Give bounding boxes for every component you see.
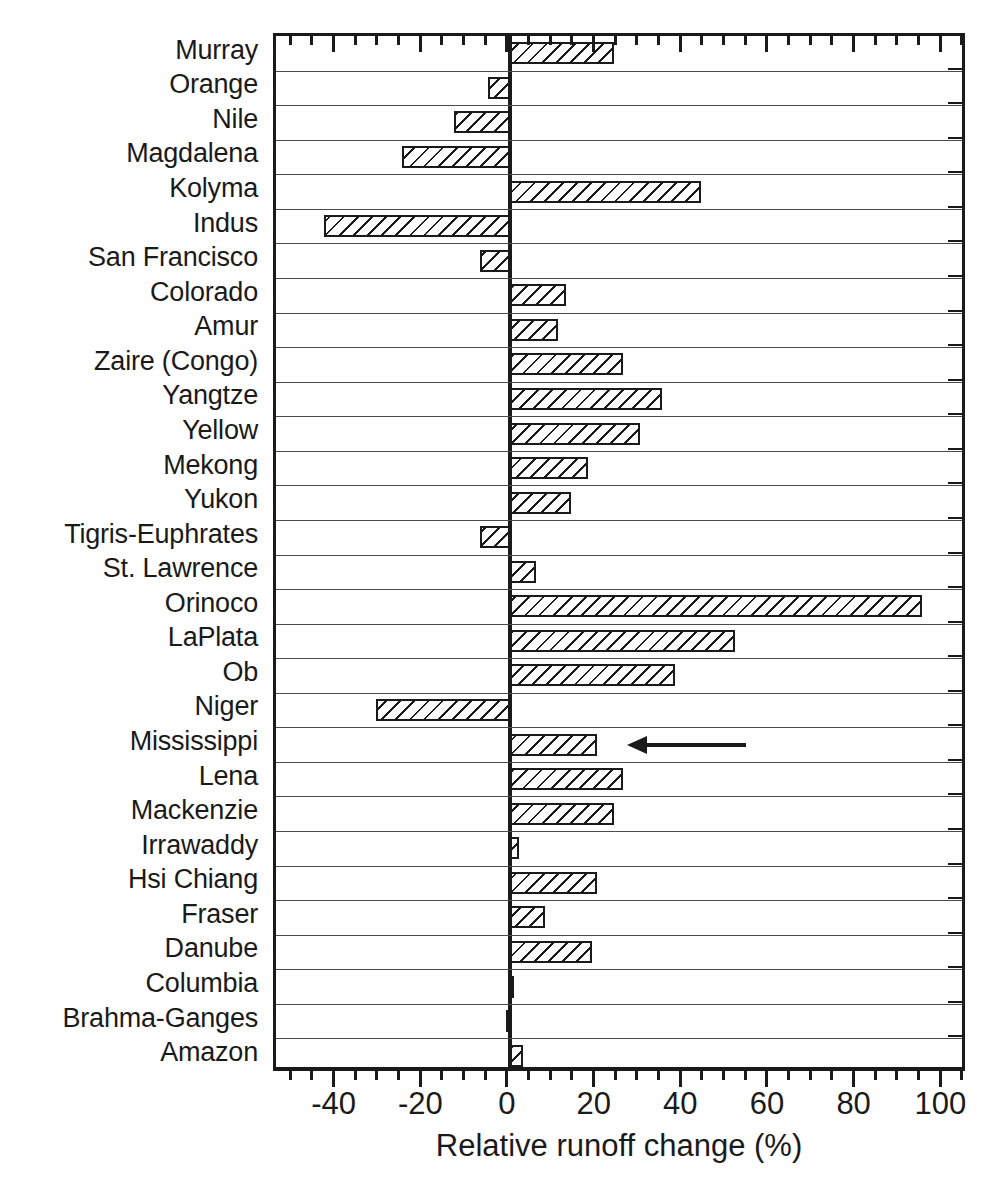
- bar: [510, 803, 614, 825]
- row-separator-line: [276, 485, 962, 486]
- y-axis-tick: [948, 1001, 962, 1003]
- x-axis-minor-tick: [874, 1071, 877, 1080]
- x-axis-minor-tick: [809, 1071, 812, 1080]
- category-label: Zaire (Congo): [0, 344, 266, 379]
- x-axis-minor-tick: [960, 1071, 963, 1080]
- bar: [376, 699, 510, 721]
- bar: [510, 906, 545, 928]
- x-axis-tick-label: -40: [311, 1088, 356, 1119]
- x-axis-major-tick: [419, 1071, 422, 1087]
- row-separator-line: [276, 658, 962, 659]
- x-axis-minor-tick: [549, 36, 552, 45]
- x-axis-minor-tick: [787, 1071, 790, 1080]
- category-label: Danube: [0, 932, 266, 967]
- x-axis-minor-tick: [722, 1071, 725, 1080]
- x-axis-major-tick: [765, 1071, 768, 1087]
- row-separator-line: [276, 1038, 962, 1039]
- bar: [510, 630, 735, 652]
- bar: [510, 492, 571, 514]
- category-label: Orange: [0, 68, 266, 103]
- row-separator-line: [276, 174, 962, 175]
- y-axis-tick: [948, 897, 962, 899]
- x-axis-minor-tick: [484, 1071, 487, 1080]
- x-axis-major-tick: [419, 36, 422, 52]
- bar: [510, 423, 640, 445]
- row-separator-line: [276, 382, 962, 383]
- x-axis-major-tick: [852, 1071, 855, 1087]
- category-label: Lena: [0, 759, 266, 794]
- row-separator-line: [276, 105, 962, 106]
- category-label: Yangtze: [0, 379, 266, 414]
- row-separator-line: [276, 900, 962, 901]
- x-axis-title: Relative runoff change (%): [273, 1130, 965, 1161]
- bar: [510, 1045, 523, 1067]
- y-axis-tick: [948, 586, 962, 588]
- bar: [510, 353, 623, 375]
- row-separator-line: [276, 589, 962, 590]
- row-separator-line: [276, 209, 962, 210]
- x-axis-minor-tick: [700, 36, 703, 45]
- x-axis-tick-label: 100: [914, 1088, 966, 1119]
- category-label: Brahma-Ganges: [0, 1001, 266, 1036]
- y-axis-tick: [948, 171, 962, 173]
- x-axis-minor-tick: [917, 36, 920, 45]
- x-axis-tick-label: 40: [663, 1088, 697, 1119]
- x-axis-top-ticks: [273, 33, 965, 53]
- x-axis-minor-tick: [289, 1071, 292, 1080]
- bar: [510, 941, 592, 963]
- y-axis-tick: [948, 863, 962, 865]
- x-axis-minor-tick: [722, 36, 725, 45]
- category-label: Nile: [0, 102, 266, 137]
- row-separator-line: [276, 278, 962, 279]
- row-separator-line: [276, 313, 962, 314]
- bar: [324, 215, 510, 237]
- runoff-change-bar-chart: MurrayOrangeNileMagdalenaKolymaIndusSan …: [0, 0, 998, 1182]
- y-axis-tick: [948, 240, 962, 242]
- category-label: Amur: [0, 310, 266, 345]
- bar: [488, 77, 510, 99]
- y-axis-tick: [948, 275, 962, 277]
- y-axis-tick: [948, 690, 962, 692]
- x-axis-minor-tick: [917, 1071, 920, 1080]
- x-axis-major-tick: [592, 36, 595, 52]
- x-axis-minor-tick: [635, 36, 638, 45]
- x-axis-minor-tick: [440, 36, 443, 45]
- row-separator-line: [276, 762, 962, 763]
- x-axis-minor-tick: [310, 1071, 313, 1080]
- category-label: Mackenzie: [0, 793, 266, 828]
- x-axis-tick-label: -20: [398, 1088, 443, 1119]
- x-axis-major-tick: [939, 1071, 942, 1087]
- bar: [510, 734, 597, 756]
- bar: [510, 457, 588, 479]
- bar: [510, 561, 536, 583]
- x-axis-minor-tick: [289, 36, 292, 45]
- x-axis-minor-tick: [830, 1071, 833, 1080]
- category-label: Irrawaddy: [0, 828, 266, 863]
- x-axis-minor-tick: [744, 1071, 747, 1080]
- bar: [506, 1010, 510, 1032]
- x-axis-major-tick: [765, 36, 768, 52]
- x-axis-minor-tick: [657, 1071, 660, 1080]
- category-label: Murray: [0, 33, 266, 68]
- y-axis-tick: [948, 759, 962, 761]
- y-axis-tick: [948, 413, 962, 415]
- plot-inner: [276, 36, 962, 1067]
- row-separator-line: [276, 693, 962, 694]
- y-axis-tick: [948, 102, 962, 104]
- y-axis-tick: [948, 68, 962, 70]
- bar: [510, 768, 623, 790]
- bar: [510, 284, 566, 306]
- row-separator-line: [276, 416, 962, 417]
- category-label: Magdalena: [0, 137, 266, 172]
- bar: [510, 388, 662, 410]
- x-axis-minor-tick: [830, 36, 833, 45]
- category-label: Mississippi: [0, 724, 266, 759]
- x-axis-major-tick: [679, 1071, 682, 1087]
- x-axis-tick-label: 60: [750, 1088, 784, 1119]
- x-axis-minor-tick: [440, 1071, 443, 1080]
- row-separator-line: [276, 520, 962, 521]
- category-label: Colorado: [0, 275, 266, 310]
- x-axis-tick-label: 0: [498, 1088, 515, 1119]
- x-axis-major-tick: [852, 36, 855, 52]
- category-label: Mekong: [0, 448, 266, 483]
